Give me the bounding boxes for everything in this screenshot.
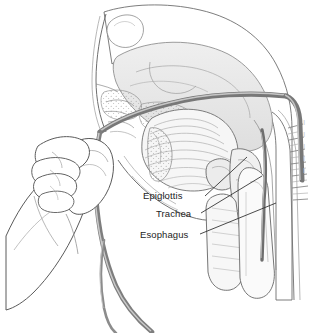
anatomy-artwork	[0, 0, 314, 333]
edge-label-1: I	[303, 118, 305, 127]
frontal-sinus-group	[107, 15, 143, 48]
label-esophagus: Esophagus	[140, 229, 188, 240]
edge-label-5: I	[303, 166, 305, 175]
label-trachea: Trachea	[156, 208, 191, 219]
edge-label-2: I	[303, 130, 305, 139]
label-epiglottis: Epiglottis	[143, 190, 183, 201]
edge-label-4: I	[303, 154, 305, 163]
edge-label-3: I	[303, 142, 305, 151]
medical-illustration-figure: Epiglottis Trachea Esophagus I I I I I	[0, 0, 314, 333]
